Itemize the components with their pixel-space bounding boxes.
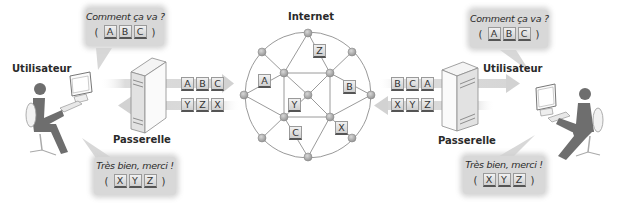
internet-label: Internet	[288, 11, 334, 22]
letter-tile: B	[503, 27, 516, 41]
gateway-label-right: Passerelle	[438, 135, 496, 146]
transit-packet: X	[335, 121, 348, 135]
network-node	[304, 153, 312, 161]
network-node	[280, 69, 288, 77]
bubble-text: Très bien, merci !	[463, 159, 545, 170]
transit-packet: Y	[288, 98, 301, 112]
network-node	[258, 48, 266, 56]
network-node	[326, 113, 334, 121]
gateway-server-left	[131, 58, 166, 133]
bubble-letters: ( A B C )	[470, 27, 548, 41]
bubble-text: Comment ça va ?	[470, 13, 548, 24]
packet-tile: B	[391, 77, 404, 91]
network-node	[280, 113, 288, 121]
bubble-letters: ( X Y Z )	[94, 174, 176, 188]
network-node	[367, 91, 375, 99]
letter-tile: Y	[129, 174, 142, 188]
packet-tile: A	[421, 77, 434, 91]
bubble-letters: ( X Y Z )	[463, 173, 545, 187]
letter-tile: C	[134, 25, 147, 39]
transit-packet: Z	[313, 44, 326, 58]
packets-outgoing-left: A B C	[181, 77, 224, 91]
speech-bubble-question-left: Comment ça va ? ( A B C )	[86, 8, 164, 46]
packets-incoming-left: Y Z X	[181, 98, 224, 112]
gateway-server-right	[442, 62, 478, 131]
network-node	[258, 134, 266, 142]
packet-tile: Y	[406, 98, 419, 112]
network-node	[304, 91, 312, 99]
network-node	[304, 29, 312, 37]
bubble-text: Comment ça va ?	[86, 11, 164, 22]
letter-tile: A	[488, 27, 501, 41]
bubble-letters: ( A B C )	[86, 25, 164, 39]
packet-tile: B	[196, 77, 209, 91]
user-left	[26, 72, 92, 155]
gateway-label-left: Passerelle	[113, 134, 171, 145]
network-node	[348, 134, 356, 142]
network-node	[348, 48, 356, 56]
letter-tile: X	[483, 173, 496, 187]
letter-tile: Z	[513, 173, 526, 187]
bubble-tail	[96, 48, 112, 70]
transit-packet: A	[258, 74, 271, 88]
user-label-right: Utilisateur	[483, 63, 543, 74]
network-node	[326, 69, 334, 77]
user-right	[536, 84, 603, 160]
packet-tile: A	[181, 77, 194, 91]
packet-tile: X	[391, 98, 404, 112]
speech-bubble-answer-right: Très bien, merci ! ( X Y Z )	[463, 156, 545, 194]
letter-tile: A	[104, 25, 117, 39]
packets-incoming-right: B C A	[391, 77, 434, 91]
speech-bubble-question-right: Comment ça va ? ( A B C )	[470, 10, 548, 48]
transit-packet: B	[343, 80, 356, 94]
transit-packet: C	[289, 126, 302, 140]
letter-tile: B	[119, 25, 132, 39]
packet-tile: Z	[196, 98, 209, 112]
packet-tile: Z	[421, 98, 434, 112]
packets-outgoing-right: X Y Z	[391, 98, 434, 112]
packet-tile: C	[406, 77, 419, 91]
bubble-tail	[82, 138, 112, 158]
packet-tile: C	[211, 77, 224, 91]
speech-bubble-answer-left: Très bien, merci ! ( X Y Z )	[94, 157, 176, 195]
letter-tile: C	[518, 27, 531, 41]
bubble-tail	[496, 135, 535, 158]
internet-network	[240, 29, 375, 161]
user-label-left: Utilisateur	[12, 63, 72, 74]
bubble-text: Très bien, merci !	[94, 160, 176, 171]
letter-tile: X	[114, 174, 127, 188]
network-node	[240, 91, 248, 99]
packet-tile: X	[211, 98, 224, 112]
letter-tile: Z	[144, 174, 157, 188]
packet-tile: Y	[181, 98, 194, 112]
letter-tile: Y	[498, 173, 511, 187]
network-diagram: Internet Utilisateur Passerelle Utilisat…	[0, 0, 627, 205]
